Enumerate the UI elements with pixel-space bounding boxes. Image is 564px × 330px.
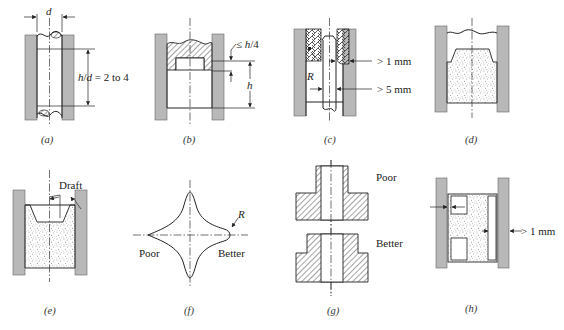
die-wall-left xyxy=(435,26,447,112)
panel-f: R Poor Better (f) xyxy=(133,180,248,317)
label-r: R xyxy=(306,70,314,82)
panel-d: (d) xyxy=(435,18,509,146)
die-wall-right xyxy=(212,34,224,120)
caption-f: (f) xyxy=(184,305,194,317)
caption-g: (g) xyxy=(327,305,340,317)
die-wall-left xyxy=(294,29,306,116)
die-wall-left xyxy=(13,190,25,275)
core-rod-tip xyxy=(322,36,336,40)
label-better: Better xyxy=(376,237,403,249)
die-wall-left xyxy=(436,178,447,268)
label-clearance-1mm: > 1 mm xyxy=(377,55,412,67)
die-wall-right xyxy=(62,35,74,120)
panel-h: > 1 mm (h) xyxy=(430,178,556,315)
label-recess-limit: ≤ h/4 xyxy=(236,38,259,50)
upper-punch-right xyxy=(337,29,349,64)
die-wall-right xyxy=(498,178,509,268)
upper-cavity xyxy=(451,196,467,214)
caption-h: (h) xyxy=(465,303,478,315)
upper-punch-left xyxy=(306,29,321,61)
label-r: R xyxy=(237,208,245,220)
label-d: d xyxy=(46,5,52,17)
label-poor: Poor xyxy=(376,171,397,183)
label-better: Better xyxy=(218,247,245,259)
panel-b: ≤ h/4 h (b) xyxy=(155,18,259,146)
label-h-over-d: h/d = 2 to 4 xyxy=(78,71,129,83)
die-wall-left xyxy=(25,35,37,120)
die-wall-right xyxy=(497,26,509,112)
caption-b: (b) xyxy=(183,134,196,146)
lower-cavity xyxy=(451,238,467,260)
panel-g: Poor Better (g) xyxy=(296,160,403,317)
powder-compaction-design-figure: d h/d = 2 to 4 (a) ≤ h/4 h (b) xyxy=(0,0,564,330)
label-clearance-5mm: > 5 mm xyxy=(377,83,412,95)
panel-e: Draft (e) xyxy=(13,170,87,317)
label-h: h xyxy=(247,79,253,91)
label-poor: Poor xyxy=(139,247,160,259)
caption-e: (e) xyxy=(44,305,56,317)
panel-a: d h/d = 2 to 4 (a) xyxy=(24,5,129,146)
die-wall-left xyxy=(155,34,167,120)
label-draft: Draft xyxy=(59,179,82,191)
part-poor xyxy=(296,160,368,226)
caption-d: (d) xyxy=(465,134,478,146)
panel-c: R > 1 mm > 5 mm (c) xyxy=(294,18,412,146)
powder-compact xyxy=(25,205,75,268)
caption-c: (c) xyxy=(324,134,336,146)
label-clearance-1mm: > 1 mm xyxy=(521,225,556,237)
caption-a: (a) xyxy=(41,134,54,146)
side-gap xyxy=(488,196,496,260)
part-better xyxy=(296,228,368,296)
